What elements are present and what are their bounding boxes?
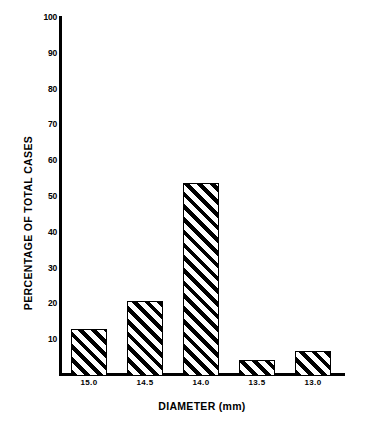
bar (127, 301, 163, 376)
x-tick-label: 14.5 (115, 378, 175, 387)
x-tick-label: 14.0 (171, 378, 231, 387)
histogram-chart: PERCENTAGE OF TOTAL CASES 10203040506070… (0, 0, 388, 435)
bar (71, 329, 107, 376)
bar (295, 351, 331, 376)
bars-layer (0, 0, 388, 435)
x-tick-label: 13.5 (227, 378, 287, 387)
x-tick-label: 13.0 (283, 378, 343, 387)
bar (183, 183, 219, 376)
bar (239, 360, 275, 376)
x-tick-label: 15.0 (59, 378, 119, 387)
x-axis-title: DIAMETER (mm) (59, 400, 345, 412)
